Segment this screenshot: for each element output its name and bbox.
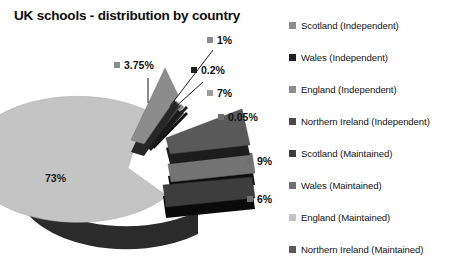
data-label-9-text: 9% <box>257 155 272 167</box>
legend-swatch-icon <box>289 118 296 125</box>
legend-item-label: Scotland (Maintained) <box>301 148 392 159</box>
data-label-0-2: 0.2% <box>191 65 225 76</box>
legend-swatch-icon <box>289 246 296 253</box>
data-label-1-text: 1% <box>217 34 232 46</box>
legend-item-northern-ireland-maintained[interactable]: Northern Ireland (Maintained) <box>289 242 423 256</box>
label-swatch-northern-ireland-independent <box>207 37 213 43</box>
legend-item-label: England (Maintained) <box>301 212 390 223</box>
legend-item-england-independent[interactable]: England (Independent) <box>289 82 397 96</box>
data-label-0-05: 0.05% <box>218 112 258 123</box>
legend-item-northern-ireland-independent[interactable]: Northern Ireland (Independent) <box>289 114 430 128</box>
data-label-3-75: 3.75% <box>114 60 154 71</box>
data-label-73: 73% <box>45 172 66 184</box>
data-label-6: 6% <box>247 194 272 205</box>
legend-item-wales-maintained[interactable]: Wales (Maintained) <box>289 178 382 192</box>
data-label-9: 9% <box>247 156 272 167</box>
data-label-7-text: 7% <box>217 87 232 99</box>
legend-swatch-icon <box>289 54 296 61</box>
data-label-0-05-text: 0.05% <box>228 111 258 123</box>
legend-item-label: Northern Ireland (Maintained) <box>301 244 423 255</box>
label-swatch-wales-independent <box>218 114 224 120</box>
pie-chart-figure: UK schools - distribution by country <box>0 0 463 272</box>
legend-item-label: Wales (Maintained) <box>301 180 382 191</box>
legend-swatch-icon <box>289 150 296 157</box>
legend-item-scotland-maintained[interactable]: Scotland (Maintained) <box>289 146 392 160</box>
label-swatch-scotland-independent <box>191 67 197 73</box>
chart-title: UK schools - distribution by country <box>14 8 276 24</box>
data-label-1: 1% <box>207 35 232 46</box>
legend-swatch-icon <box>289 214 296 221</box>
legend-item-wales-independent[interactable]: Wales (Independent) <box>289 50 388 64</box>
pie-plot-area: 73% 3.75% 1% 0.2% 7% 0.05% 9% 6% <box>0 28 285 272</box>
legend-item-label: Wales (Independent) <box>301 52 388 63</box>
label-swatch-wales-maintained <box>247 158 253 164</box>
label-swatch-england-independent <box>114 62 120 68</box>
data-label-6-text: 6% <box>257 193 272 205</box>
legend-item-scotland-independent[interactable]: Scotland (Independent) <box>289 18 399 32</box>
legend-item-label: England (Independent) <box>301 84 397 95</box>
legend-item-england-maintained[interactable]: England (Maintained) <box>289 210 390 224</box>
chart-legend: Scotland (Independent) Wales (Independen… <box>289 14 463 266</box>
data-label-0-2-text: 0.2% <box>201 64 225 76</box>
legend-swatch-icon <box>289 86 296 93</box>
slice-england-maintained <box>0 96 167 222</box>
legend-item-label: Scotland (Independent) <box>301 20 399 31</box>
legend-item-label: Northern Ireland (Independent) <box>301 116 430 127</box>
legend-swatch-icon <box>289 22 296 29</box>
label-swatch-northern-ireland-maintained <box>207 90 213 96</box>
legend-swatch-icon <box>289 182 296 189</box>
label-swatch-scotland-maintained <box>247 196 253 202</box>
data-label-3-75-text: 3.75% <box>124 59 154 71</box>
data-label-7: 7% <box>207 88 232 99</box>
